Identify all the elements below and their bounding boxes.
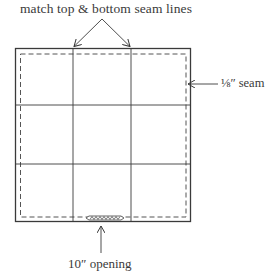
seam-line (21, 54, 187, 217)
annotation-top: match top & bottom seam lines (20, 2, 192, 16)
arrow-top-right-icon (102, 19, 130, 47)
diagram-drawing (0, 0, 278, 280)
annotation-opening: 10″ opening (68, 257, 132, 270)
opening-stitch-icon (86, 216, 124, 220)
panel-outline (16, 49, 191, 222)
arrow-top-left-icon (74, 19, 102, 47)
annotation-seam: ⅛″ seam (221, 77, 264, 90)
